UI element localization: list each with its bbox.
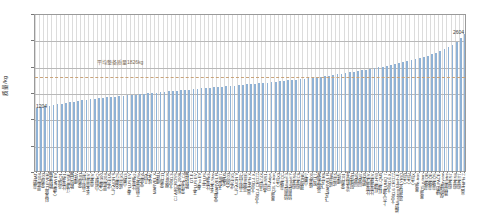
bar [357, 71, 359, 171]
bar [114, 97, 116, 171]
y-axis-title: 质量/kg [1, 76, 9, 97]
bar [304, 79, 306, 171]
bar [262, 83, 264, 171]
bar [320, 77, 322, 171]
bar [456, 42, 458, 171]
bar [131, 95, 133, 171]
bar [123, 96, 125, 171]
x-axis-labels: 奔腾NAT思皓E10X零跑T03科莱威CLEVER欧拉黑猫宝骏KiWi EV奇瑞… [34, 173, 466, 221]
bar [40, 107, 42, 171]
bar [258, 83, 260, 171]
bar [254, 84, 256, 171]
bar [188, 90, 190, 171]
bar [283, 81, 285, 171]
bar [271, 82, 273, 171]
bar [406, 61, 408, 171]
bar [361, 70, 363, 171]
bar [127, 95, 129, 171]
bar [234, 86, 236, 171]
bar [435, 53, 437, 171]
bar [221, 87, 223, 171]
bar [90, 99, 92, 171]
chart-root: 050010001500200025003000 质量/kg 平均整备质量182… [0, 0, 486, 221]
bar [69, 102, 71, 171]
bar [176, 91, 178, 171]
average-line [35, 77, 465, 78]
bar-value-label: 2604 [453, 29, 464, 35]
bar [341, 74, 343, 171]
plot-area: 平均整备质量1826kg 12042604 [34, 14, 466, 172]
bar [81, 100, 83, 171]
bar [168, 91, 170, 171]
bar [431, 54, 433, 171]
bar [180, 90, 182, 171]
bar [365, 70, 367, 171]
bar [267, 83, 269, 171]
bar [73, 102, 75, 171]
bar [184, 90, 186, 171]
bar [316, 77, 318, 171]
bar [98, 98, 100, 171]
bar [444, 49, 446, 171]
bar [332, 75, 334, 171]
bar [291, 80, 293, 171]
bar [156, 93, 158, 171]
bar [402, 62, 404, 171]
bar [44, 106, 46, 171]
bar [135, 95, 137, 171]
bar [139, 94, 141, 171]
bar [460, 38, 462, 171]
bar-series [35, 15, 465, 171]
bar [328, 76, 330, 171]
bar-value-label: 1204 [36, 103, 47, 109]
bar [250, 84, 252, 171]
bar [382, 67, 384, 171]
bar [230, 86, 232, 171]
bar [464, 34, 466, 171]
bar [53, 105, 55, 171]
bar [61, 104, 63, 171]
bar [398, 63, 400, 171]
bar [172, 91, 174, 171]
bar [353, 72, 355, 171]
bar [287, 80, 289, 171]
bar [197, 89, 199, 171]
bar [427, 56, 429, 171]
bar [102, 98, 104, 171]
bar [86, 100, 88, 171]
bar [147, 93, 149, 171]
bar [308, 78, 310, 171]
bar [106, 97, 108, 171]
bar [49, 106, 51, 171]
bar [337, 74, 339, 171]
bar [452, 45, 454, 171]
bar [394, 64, 396, 171]
bar [217, 87, 219, 171]
bar [209, 88, 211, 171]
bar [390, 65, 392, 171]
bar [378, 67, 380, 171]
bar [312, 78, 314, 171]
bar [275, 82, 277, 171]
bar [345, 73, 347, 171]
bar [225, 86, 227, 171]
bar [151, 93, 153, 171]
bar [201, 88, 203, 171]
bar [300, 79, 302, 171]
bar [143, 94, 145, 171]
bar [238, 85, 240, 171]
bar [349, 72, 351, 171]
bar [439, 51, 441, 171]
bar [164, 92, 166, 171]
bar [193, 89, 195, 171]
bar [94, 99, 96, 171]
bar [369, 69, 371, 171]
bar [160, 92, 162, 171]
bar [110, 97, 112, 171]
bar [386, 66, 388, 171]
bar [374, 68, 376, 171]
bar [77, 101, 79, 171]
bar [36, 108, 38, 171]
bar [242, 85, 244, 171]
bar [279, 81, 281, 171]
